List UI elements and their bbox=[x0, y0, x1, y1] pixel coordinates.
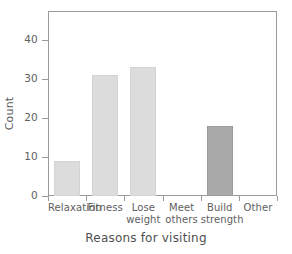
x-tick-mark bbox=[86, 196, 87, 201]
x-tick-label-line1: Fitness bbox=[88, 202, 123, 213]
x-tick-label-line1: Build bbox=[207, 202, 233, 213]
x-tick-label-line2: weight bbox=[124, 214, 162, 226]
bar-fitness bbox=[92, 75, 118, 196]
x-tick-label: Loseweight bbox=[124, 202, 162, 225]
x-tick-mark bbox=[201, 196, 202, 201]
bar-chart: Count 010203040 RelaxationFitnessLosewei… bbox=[0, 0, 292, 254]
bar-relaxation bbox=[54, 161, 80, 196]
x-tick-label: Fitness bbox=[86, 202, 124, 214]
x-tick-label: Meetothers bbox=[163, 202, 201, 225]
x-tick-label-line1: Lose bbox=[132, 202, 155, 213]
y-tick-label: 30 bbox=[14, 72, 38, 84]
x-tick-label-line2: others bbox=[163, 214, 201, 226]
x-tick-mark bbox=[124, 196, 125, 201]
x-tick-mark bbox=[239, 196, 240, 201]
x-tick-mark bbox=[163, 196, 164, 201]
x-tick-mark bbox=[48, 196, 49, 201]
x-tick-label-line1: Other bbox=[243, 202, 272, 213]
x-tick-label: Relaxation bbox=[48, 202, 86, 214]
y-tick-label: 20 bbox=[14, 111, 38, 123]
x-tick-label: Buildstrength bbox=[201, 202, 239, 225]
x-tick-label-line1: Meet bbox=[169, 202, 194, 213]
bars-container bbox=[48, 11, 277, 196]
bar-build-strength bbox=[207, 126, 233, 196]
x-tick-mark bbox=[277, 196, 278, 201]
x-axis-title: Reasons for visiting bbox=[0, 231, 292, 245]
x-tick-label-line2: strength bbox=[201, 214, 239, 226]
bar-lose-weight bbox=[130, 67, 156, 196]
y-tick-label: 10 bbox=[14, 150, 38, 162]
y-tick-label: 40 bbox=[14, 33, 38, 45]
y-tick-label: 0 bbox=[14, 189, 38, 201]
x-tick-label: Other bbox=[239, 202, 277, 214]
